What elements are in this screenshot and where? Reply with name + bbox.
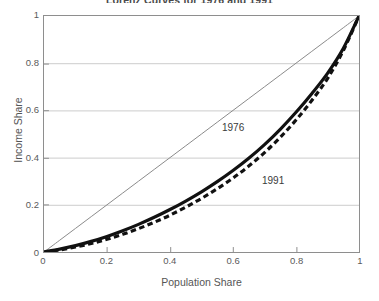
x-tick-label: 0.6 [218,256,248,266]
x-tick-label: 0 [28,256,58,266]
curve-annotation-1991: 1991 [262,175,284,186]
x-tick-label: 0.8 [282,256,312,266]
y-tick-label: 0.2 [13,200,39,210]
chart-title: Lorenz Curves for 1976 and 1991 [0,0,379,3]
x-tick-label: 1 [345,256,375,266]
x-tick-label: 0.2 [91,256,121,266]
x-tick-label: 0.4 [155,256,185,266]
y-tick-label: 0.8 [13,58,39,68]
y-tick-label: 1 [13,10,39,20]
plot-area [43,15,360,253]
y-axis-title: Income Share [12,70,24,190]
data-series [44,16,359,252]
series-line-equality-line [44,16,359,252]
curve-annotation-1976: 1976 [222,122,244,133]
x-axis-tick-labels: 00.20.40.60.81 [43,256,360,270]
x-axis-title: Population Share [43,276,360,288]
lorenz-curve-figure: Lorenz Curves for 1976 and 1991 00.20.40… [0,0,379,301]
plot-canvas [44,16,359,252]
